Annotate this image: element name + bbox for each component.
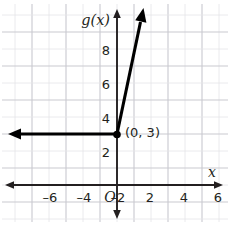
y-tick-label-2: 2 [102,145,110,160]
y-axis-label: g(x) [81,12,110,28]
x-tick-label-6: 6 [214,190,222,205]
vertex-point [113,131,121,139]
x-tick-label-4: 4 [180,190,188,205]
origin-label: O [104,189,116,205]
x-tick-label-neg4: –4 [77,190,92,205]
y-tick-label-4: 4 [102,111,110,126]
graph-figure: –6 –4 –2 O 2 4 6 2 4 6 8 g(x) x (0, 3) [0,0,230,226]
x-tick-label-neg6: –6 [43,190,58,205]
coordinate-plane: –6 –4 –2 O 2 4 6 2 4 6 8 g(x) x (0, 3) [0,0,230,226]
y-tick-label-6: 6 [102,77,110,92]
x-tick-label-2: 2 [146,190,154,205]
y-tick-label-8: 8 [102,43,110,58]
vertex-point-label: (0, 3) [125,125,160,140]
x-axis-label: x [208,164,216,180]
